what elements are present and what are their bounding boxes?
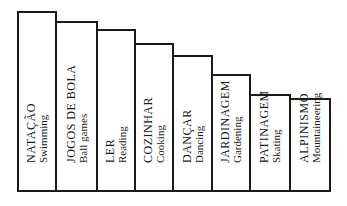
label-portuguese: NATAÇÃO (25, 103, 37, 163)
bar-label: DANÇARDancing (174, 53, 211, 187)
bar-dancing: DANÇARDancing (172, 55, 213, 191)
label-english: Reading (116, 126, 128, 163)
bar-label: PATINAGEMSkating (251, 92, 289, 187)
bar-label-text: COZINHARCooking (142, 97, 166, 163)
bar-chart: NATAÇÃOSwimmingJOGOS DE BOLABall gamesLE… (0, 0, 347, 206)
label-english: Skating (270, 90, 282, 163)
bar-label: LERReading (98, 27, 134, 187)
label-portuguese: JOGOS DE BOLA (65, 64, 77, 163)
bar-label-text: NATAÇÃOSwimming (25, 103, 49, 163)
bar-gardening: JARDINAGEMGardening (211, 74, 251, 191)
chart-baseline (17, 190, 331, 192)
bar-label-text: ALPINISMOMountaineering (298, 93, 322, 163)
label-english: Dancing (193, 109, 205, 163)
bar-label: JOGOS DE BOLABall games (57, 19, 96, 187)
bar-label-text: JOGOS DE BOLABall games (65, 64, 89, 163)
label-portuguese: PATINAGEM (258, 90, 270, 163)
label-portuguese: DANÇAR (181, 109, 193, 163)
bar-label: JARDINAGEMGardening (213, 72, 249, 187)
bar-label: NATAÇÃOSwimming (19, 9, 55, 187)
bar-label-text: LERReading (104, 126, 128, 163)
label-english: Mountaineering (310, 93, 322, 163)
label-english: Ball games (77, 64, 89, 163)
bar-label: COZINHARCooking (136, 41, 172, 187)
label-portuguese: JARDINAGEM (219, 80, 231, 163)
label-english: Cooking (154, 97, 166, 163)
label-portuguese: LER (104, 126, 116, 163)
bar-label-text: DANÇARDancing (181, 109, 205, 163)
bar-label: ALPINISMOMountaineering (291, 96, 329, 187)
bar-cooking: COZINHARCooking (134, 43, 174, 191)
label-english: Gardening (231, 80, 243, 163)
bar-ball-games: JOGOS DE BOLABall games (55, 21, 98, 191)
bar-reading: LERReading (96, 29, 136, 191)
label-portuguese: ALPINISMO (298, 93, 310, 163)
bar-label-text: JARDINAGEMGardening (219, 80, 243, 163)
bar-mountaineering: ALPINISMOMountaineering (289, 98, 331, 191)
label-portuguese: COZINHAR (142, 97, 154, 163)
bar-label-text: PATINAGEMSkating (258, 90, 282, 163)
label-english: Swimming (37, 103, 49, 163)
bar-skating: PATINAGEMSkating (249, 94, 291, 191)
bar-swimming: NATAÇÃOSwimming (17, 11, 57, 191)
